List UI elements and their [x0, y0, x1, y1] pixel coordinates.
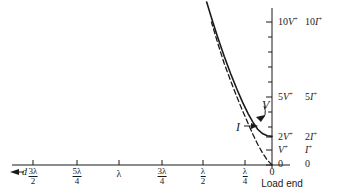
x-tick-label: λ2	[200, 167, 207, 186]
x-tick-label: 5λ4	[72, 167, 83, 186]
y-tick-marks	[266, 22, 272, 165]
x-axis-distance-label: d	[22, 166, 27, 177]
y-tick-label: 10V+	[278, 15, 298, 27]
y-tick-label: 5I+	[305, 90, 317, 102]
x-tick-label: λ	[117, 168, 122, 179]
y-tick-label: 2I+	[305, 130, 317, 142]
y-tick-label: 0	[305, 158, 310, 169]
current-curve-label: I	[236, 120, 240, 135]
x-origin-label: 0	[270, 166, 275, 177]
y-tick-label: I+	[305, 143, 312, 155]
x-tick-label: 3λ4	[157, 167, 168, 186]
axes-group	[10, 8, 290, 175]
y-tick-label: 5V+	[278, 90, 293, 102]
x-tick-label: 3λ2	[28, 167, 39, 186]
y-tick-label: 2V+	[278, 130, 293, 142]
y-tick-label: V+	[278, 143, 288, 155]
load-end-label: Load end	[261, 178, 303, 189]
voltage-curve-label: V	[262, 98, 269, 113]
x-tick-marks	[33, 160, 245, 165]
x-tick-label: λ4	[242, 167, 249, 186]
y-tick-label: 0	[278, 158, 283, 169]
y-tick-label: 10I+	[305, 15, 322, 27]
